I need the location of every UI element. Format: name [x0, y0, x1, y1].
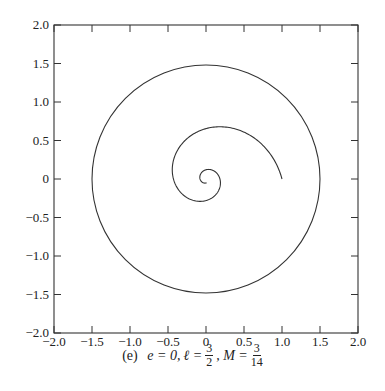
y-tick-label: −2.0	[25, 325, 49, 340]
fraction-m: 3 14	[251, 342, 263, 369]
caption-l: ℓ =	[183, 348, 202, 364]
chart-svg: −2.0−1.5−1.0−0.500.51.01.52.02.01.51.00.…	[0, 0, 385, 391]
y-tick-label: 0	[43, 171, 50, 186]
figure-caption: (e) e = 0, ℓ = 3 2 , M = 3 14	[0, 342, 385, 369]
tick-labels: −2.0−1.5−1.0−0.500.51.01.52.02.01.51.00.…	[25, 17, 366, 349]
y-tick-label: 2.0	[33, 17, 49, 32]
plot-frame	[54, 25, 358, 333]
y-tick-label: −1.5	[25, 287, 49, 302]
caption-e: e = 0,	[147, 348, 180, 364]
axis-ticks	[54, 25, 358, 333]
orbit-curve	[92, 65, 320, 293]
y-tick-label: 1.5	[33, 56, 49, 71]
y-tick-label: −0.5	[25, 210, 49, 225]
fraction-l: 3 2	[205, 342, 213, 369]
y-tick-label: 0.5	[33, 133, 49, 148]
caption-label: (e)	[122, 348, 138, 364]
caption-m: , M =	[216, 348, 248, 364]
y-tick-label: 1.0	[33, 94, 49, 109]
y-tick-label: −1.0	[25, 248, 49, 263]
